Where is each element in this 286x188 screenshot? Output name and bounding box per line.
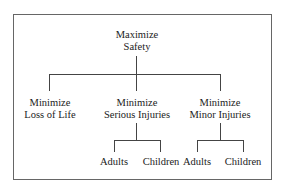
node-minimize-serious-injuries: Minimize Serious Injuries: [104, 97, 170, 121]
connector-serious-adults: [114, 140, 115, 152]
serious-line2: Serious Injuries: [104, 109, 170, 121]
minor-line2: Minor Injuries: [190, 109, 251, 121]
root-line2: Safety: [116, 41, 159, 53]
loss-line1: Minimize: [24, 97, 75, 109]
connector-serious-vertical: [136, 123, 137, 140]
connector-minor-children: [243, 140, 244, 152]
leaf-minor-children: Children: [225, 156, 262, 168]
leaf-serious-children: Children: [143, 156, 180, 168]
leaf-serious-adults: Adults: [100, 156, 128, 168]
connector-loss-of-life: [49, 74, 50, 91]
minor-line1: Minimize: [190, 97, 251, 109]
connector-level1-horizontal: [49, 74, 221, 75]
root-node-maximize-safety: Maximize Safety: [116, 29, 159, 53]
connector-minor-adults: [197, 140, 198, 152]
serious-line1: Minimize: [104, 97, 170, 109]
loss-line2: Loss of Life: [24, 109, 75, 121]
connector-minor-horizontal: [197, 140, 244, 141]
connector-serious-horizontal: [114, 140, 161, 141]
node-minimize-loss-of-life: Minimize Loss of Life: [24, 97, 75, 121]
root-line1: Maximize: [116, 29, 159, 41]
leaf-minor-adults: Adults: [183, 156, 211, 168]
node-minimize-minor-injuries: Minimize Minor Injuries: [190, 97, 251, 121]
connector-minor-injuries: [220, 74, 221, 91]
connector-serious-children: [160, 140, 161, 152]
connector-minor-vertical: [220, 123, 221, 140]
